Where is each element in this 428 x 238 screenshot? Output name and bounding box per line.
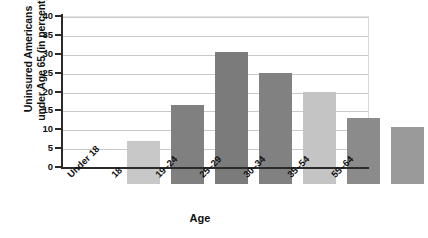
y-axis-tick-mark bbox=[55, 166, 63, 168]
y-axis-tick-mark bbox=[55, 147, 63, 149]
y-axis-tick-label: 20 bbox=[13, 87, 53, 96]
bar bbox=[127, 141, 160, 184]
y-axis-tick-mark bbox=[55, 109, 63, 111]
y-axis-tick-label: 30 bbox=[13, 49, 53, 58]
bar bbox=[347, 118, 380, 184]
gridline bbox=[62, 17, 368, 18]
y-axis-tick-mark bbox=[55, 72, 63, 74]
y-axis-tick-label: 10 bbox=[13, 124, 53, 133]
bar bbox=[391, 127, 424, 184]
y-axis-tick-label: 35 bbox=[13, 30, 53, 39]
y-axis-tick-label: 0 bbox=[13, 162, 53, 171]
y-axis-tick-mark bbox=[55, 15, 63, 17]
y-axis-tick-label: 15 bbox=[13, 105, 53, 114]
x-axis-title: Age bbox=[0, 212, 374, 224]
plot-area bbox=[62, 16, 369, 167]
y-axis-tick-mark bbox=[55, 128, 63, 130]
y-axis-tick-mark bbox=[55, 53, 63, 55]
y-axis-tick-mark bbox=[55, 91, 63, 93]
y-axis-tick-label: 40 bbox=[13, 11, 53, 20]
y-axis-tick-label: 5 bbox=[13, 143, 53, 152]
y-axis-tick-label: 25 bbox=[13, 68, 53, 77]
y-axis-tick-mark bbox=[55, 34, 63, 36]
